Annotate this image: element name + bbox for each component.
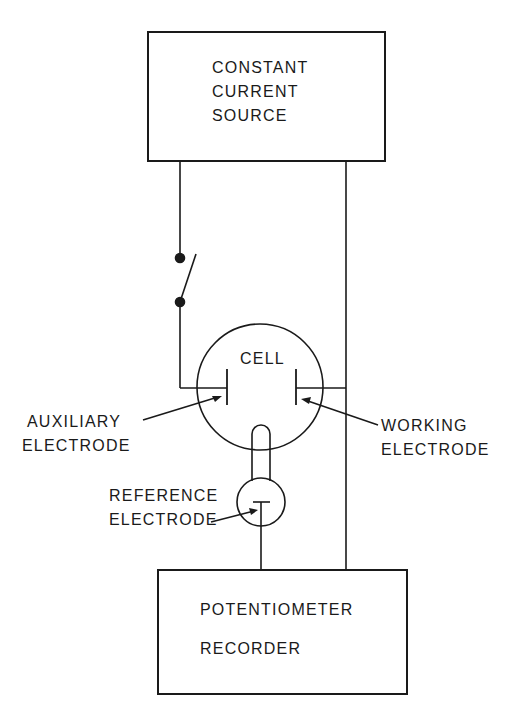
working-electrode-label: WORKING ELECTRODE — [381, 414, 490, 462]
auxiliary-leader-line — [143, 397, 218, 420]
working-label-line-2: ELECTRODE — [381, 438, 490, 462]
source-label: CONSTANT CURRENT SOURCE — [212, 56, 308, 128]
source-label-line-3: SOURCE — [212, 104, 308, 128]
recorder-label-line-2: RECORDER — [200, 629, 353, 668]
cell-vessel — [197, 324, 323, 450]
cell-label-text: CELL — [240, 347, 285, 371]
cell-label: CELL — [240, 347, 285, 371]
auxiliary-label-line-1: AUXILIARY — [22, 410, 131, 434]
reference-arrowhead-icon — [249, 508, 258, 515]
auxiliary-label-line-2: ELECTRODE — [22, 434, 131, 458]
reference-electrode-label: REFERENCE ELECTRODE — [109, 484, 218, 532]
working-arrowhead-icon — [301, 397, 311, 404]
source-label-line-1: CONSTANT — [212, 56, 308, 80]
source-label-line-2: CURRENT — [212, 80, 308, 104]
reference-label-line-2: ELECTRODE — [109, 508, 218, 532]
working-label-line-1: WORKING — [381, 414, 490, 438]
salt-bridge-icon — [252, 425, 270, 481]
reference-label-line-1: REFERENCE — [109, 484, 218, 508]
working-leader-line — [305, 400, 378, 425]
recorder-label: POTENTIOMETER RECORDER — [200, 590, 353, 668]
auxiliary-electrode-label: AUXILIARY ELECTRODE — [22, 410, 131, 458]
auxiliary-arrowhead-icon — [212, 396, 222, 402]
recorder-label-line-1: POTENTIOMETER — [200, 590, 353, 629]
diagram-canvas: CONSTANT CURRENT SOURCE CELL AUXILIARY E… — [0, 0, 521, 726]
switch-contact-top-icon — [176, 254, 185, 263]
